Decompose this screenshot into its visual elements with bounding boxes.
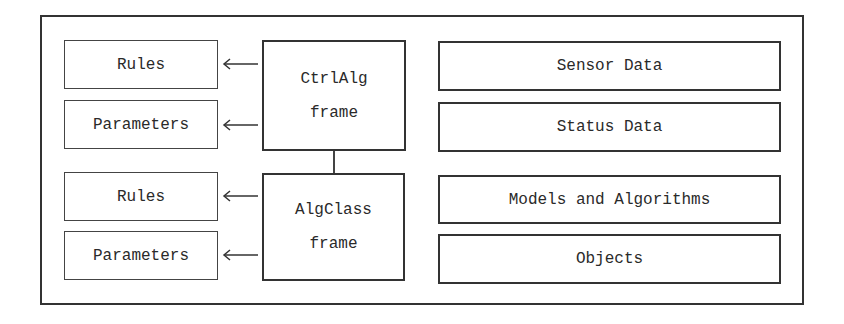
rules-label-top: Rules <box>117 56 165 74</box>
left-arrow-icon <box>222 248 258 262</box>
ctrlalg-frame-title: CtrlAlg <box>300 62 367 96</box>
ctrlalg-frame-box: CtrlAlg frame <box>262 40 406 151</box>
parameters-box-top: Parameters <box>64 100 218 149</box>
left-arrow-icon <box>222 189 258 203</box>
left-arrow-icon <box>222 118 258 132</box>
parameters-box-bottom: Parameters <box>64 231 218 280</box>
sensor-data-label: Sensor Data <box>557 57 663 75</box>
parameters-label-bottom: Parameters <box>93 247 189 265</box>
models-and-algorithms-label: Models and Algorithms <box>509 191 711 209</box>
rules-box-bottom: Rules <box>64 172 218 221</box>
algclass-frame-box: AlgClass frame <box>262 173 405 281</box>
objects-label: Objects <box>576 250 643 268</box>
rules-label-bottom: Rules <box>117 188 165 206</box>
rules-box-top: Rules <box>64 40 218 89</box>
left-arrow-icon <box>222 57 258 71</box>
ctrlalg-frame-subtitle: frame <box>310 96 358 130</box>
frame-connector-line <box>333 151 335 173</box>
objects-box: Objects <box>438 234 781 284</box>
sensor-data-box: Sensor Data <box>438 41 781 91</box>
status-data-box: Status Data <box>438 102 781 152</box>
parameters-label-top: Parameters <box>93 116 189 134</box>
status-data-label: Status Data <box>557 118 663 136</box>
algclass-frame-title: AlgClass <box>295 193 372 227</box>
models-and-algorithms-box: Models and Algorithms <box>438 175 781 224</box>
algclass-frame-subtitle: frame <box>309 227 357 261</box>
